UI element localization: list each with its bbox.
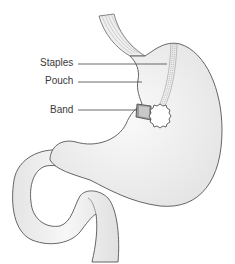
stomach-diagram: Staples Pouch Band [0,0,235,264]
stomach-body [50,43,222,206]
stomach-illustration [0,0,235,264]
label-pouch: Pouch [45,75,73,87]
label-staples: Staples [40,57,73,69]
gastric-band [136,104,151,120]
label-band: Band [50,104,73,116]
esophagus [99,14,145,56]
